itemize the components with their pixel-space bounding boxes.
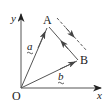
vector-a-label: a (27, 40, 33, 52)
vector-b-tilde (58, 82, 64, 84)
vector-a-arrow (38, 32, 45, 48)
vector-a-tilde (27, 52, 33, 54)
dashed-line-arrow (66, 28, 74, 37)
vector-diagram: y x O A B a b (0, 0, 107, 107)
point-a-label: A (43, 13, 52, 27)
origin-label: O (12, 89, 21, 103)
y-axis-label: y (10, 12, 16, 24)
point-b-label: B (80, 53, 88, 67)
vector-b-label: b (58, 70, 64, 82)
x-axis-label: x (96, 89, 102, 101)
vector-b-arrow (60, 62, 75, 69)
vector-ba-arrow (61, 41, 68, 49)
